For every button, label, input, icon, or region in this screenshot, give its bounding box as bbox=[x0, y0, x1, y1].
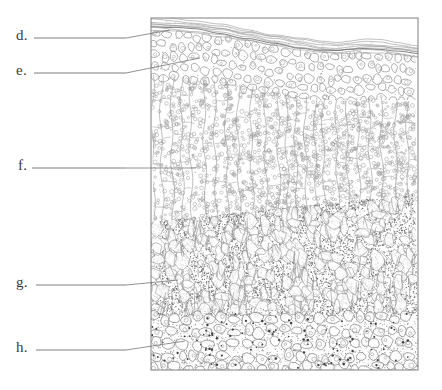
illustration-body bbox=[147, 17, 420, 374]
figure-canvas bbox=[0, 0, 442, 390]
label-letter-d: d. bbox=[16, 27, 28, 44]
label-letter-g: g. bbox=[16, 274, 28, 291]
label-letter-e: e. bbox=[16, 62, 27, 79]
label-letter-h: h. bbox=[16, 339, 28, 356]
label-letter-f: f. bbox=[18, 157, 27, 174]
leaf-cross-section-figure: d.e.f.g.h. bbox=[0, 0, 442, 390]
